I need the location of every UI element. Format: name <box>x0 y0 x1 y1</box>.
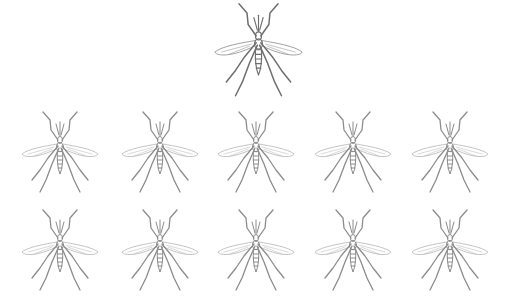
grid-mosquito <box>110 107 210 197</box>
mosquito-icon <box>303 107 403 197</box>
mosquito-icon <box>201 0 316 102</box>
grid-mosquito <box>303 107 403 197</box>
mosquito-icon <box>303 205 403 295</box>
grid-mosquito <box>400 107 500 197</box>
mosquito-icon <box>110 107 210 197</box>
grid-mosquito <box>400 205 500 295</box>
mosquito-icon <box>10 107 110 197</box>
mosquito-icon <box>400 205 500 295</box>
mosquito-icon <box>206 107 306 197</box>
grid-mosquito <box>110 205 210 295</box>
mosquito-icon <box>110 205 210 295</box>
grid-mosquito <box>206 107 306 197</box>
mosquito-icon <box>10 205 110 295</box>
grid-mosquito <box>206 205 306 295</box>
mosquito-icon <box>400 107 500 197</box>
grid-mosquito <box>10 107 110 197</box>
grid-mosquito <box>303 205 403 295</box>
grid-mosquito <box>10 205 110 295</box>
mosquito-icon <box>206 205 306 295</box>
featured-mosquito <box>201 0 316 102</box>
